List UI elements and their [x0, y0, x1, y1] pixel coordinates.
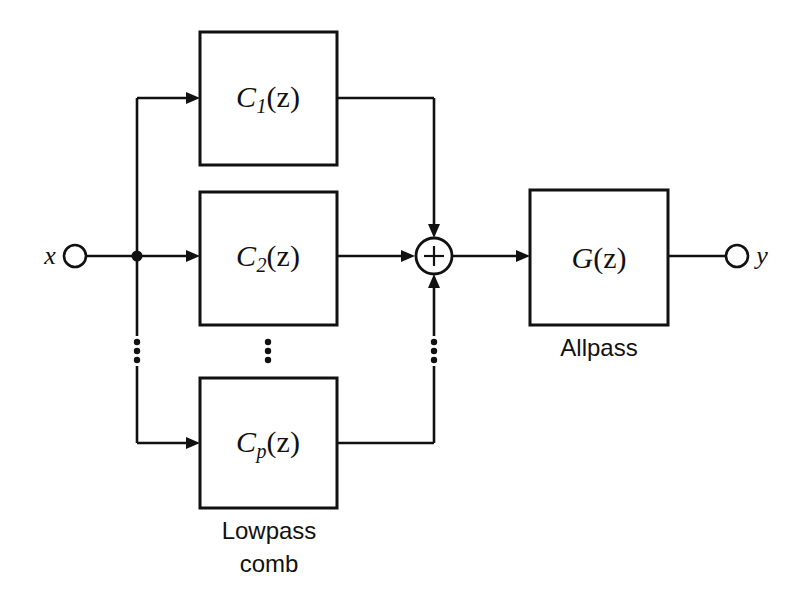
- caption-allpass: Allpass: [560, 336, 637, 360]
- junction-dot-input-split: [132, 251, 143, 262]
- input-signal-label: x: [44, 243, 56, 269]
- ellipsis-output-bus: [431, 339, 437, 363]
- block-g-arg: (z): [593, 241, 626, 274]
- caption-lowpass-comb-line2: comb: [240, 552, 299, 576]
- caption-lowpass-comb-line1: Lowpass: [222, 519, 317, 543]
- arrowhead-c2-input: [186, 250, 200, 262]
- block-c1-base: C: [236, 80, 256, 113]
- block-c1-label: C1(z): [236, 82, 300, 116]
- block-diagram-canvas: x y C1(z) C2(z) Cp(z) G(z) Lowpass comb …: [0, 0, 798, 596]
- block-c2-base: C: [236, 239, 256, 272]
- ellipsis-between-blocks: [265, 339, 271, 363]
- block-cp-subscript: p: [256, 440, 267, 462]
- input-terminal-circle: [64, 245, 86, 267]
- block-g-base: G: [572, 241, 594, 274]
- arrowhead-cp-input: [186, 437, 200, 449]
- block-c1-subscript: 1: [256, 95, 267, 117]
- ellipsis-input-bus: [134, 339, 140, 363]
- block-c1-arg: (z): [267, 80, 300, 113]
- output-terminal-circle: [726, 245, 748, 267]
- arrowhead-g-input: [516, 250, 530, 262]
- block-cp-arg: (z): [267, 425, 300, 458]
- arrowhead-summer-top: [428, 224, 440, 238]
- arrowhead-summer-bottom: [428, 274, 440, 288]
- block-c2-subscript: 2: [256, 254, 267, 276]
- block-c2-label: C2(z): [236, 241, 300, 275]
- arrowhead-c1-input: [186, 92, 200, 104]
- block-g-label: G(z): [572, 243, 627, 273]
- block-cp-base: C: [236, 425, 256, 458]
- block-cp-label: Cp(z): [236, 427, 300, 461]
- block-c2-arg: (z): [267, 239, 300, 272]
- output-signal-label: y: [756, 243, 768, 269]
- arrowhead-summer-left: [401, 250, 415, 262]
- diagram-vector-layer: [0, 0, 798, 596]
